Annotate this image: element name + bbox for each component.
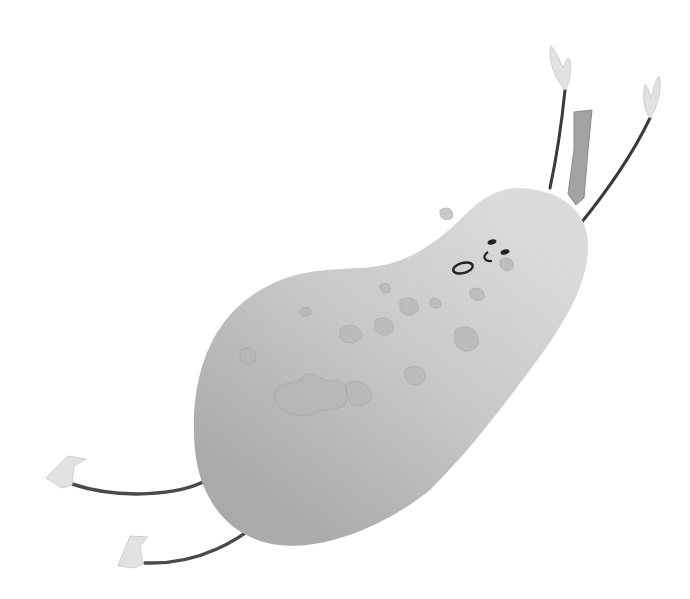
right-hand-icon <box>644 76 661 118</box>
upper-foot-icon <box>46 456 86 488</box>
upper-leg <box>46 456 207 494</box>
pear-body <box>194 188 588 546</box>
pear-illustration <box>0 0 690 599</box>
left-arm <box>550 46 571 188</box>
left-hand-icon <box>550 46 571 90</box>
illustration-canvas: Watercolor pear character with face, ste… <box>0 0 690 599</box>
right-arm <box>577 76 660 228</box>
stem <box>568 110 592 205</box>
